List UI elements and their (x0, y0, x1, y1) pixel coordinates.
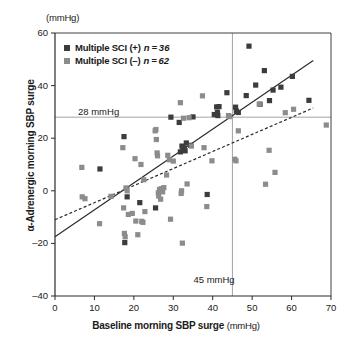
data-point-marker (233, 158, 238, 163)
data-point-marker (168, 217, 173, 222)
legend-item-sci-positive: Multiple SCI (+) n = 36 (64, 41, 169, 54)
data-point-marker (189, 143, 194, 148)
x-tick-label: 50 (242, 302, 262, 313)
x-tick-label: 70 (321, 302, 341, 313)
x-tick-label: 10 (84, 302, 104, 313)
data-point-marker (154, 137, 159, 142)
data-point-marker (121, 134, 126, 139)
data-point-marker (200, 93, 205, 98)
sci-negative-fit (55, 108, 313, 220)
data-point-marker (165, 153, 170, 158)
y-tick-label: 60 (22, 27, 48, 38)
data-point-marker (121, 205, 126, 210)
data-point-marker (141, 177, 146, 182)
x-tick-label: 40 (203, 302, 223, 313)
data-point-marker (184, 181, 189, 186)
data-point-marker (171, 158, 176, 163)
y-tick-label: –40 (22, 290, 48, 301)
y-tick-label: 0 (22, 185, 48, 196)
x-tick-label: 30 (163, 302, 183, 313)
data-point-marker (135, 232, 140, 237)
data-point-marker (122, 240, 127, 245)
data-point-marker (82, 196, 87, 201)
data-point-marker (227, 114, 232, 119)
x-tick-label: 60 (282, 302, 302, 313)
data-point-marker (244, 93, 249, 98)
data-point-marker (164, 172, 169, 177)
data-point-marker (123, 234, 128, 239)
data-point-marker (130, 211, 135, 216)
legend-item-sci-negative: Multiple SCI (–) n = 62 (64, 54, 169, 67)
x-tick-label: 0 (45, 302, 65, 313)
data-point-marker (158, 197, 163, 202)
data-point-marker (204, 204, 209, 209)
data-point-marker (186, 115, 191, 120)
data-point-marker (236, 110, 241, 115)
data-point-marker (262, 68, 267, 73)
data-point-marker (263, 182, 268, 187)
data-point-marker (209, 158, 214, 163)
data-point-marker (97, 221, 102, 226)
data-point-marker (161, 185, 166, 190)
scatter-plot-figure: (mmHg) Multiple SCI (+) n = 36 Multiple … (0, 0, 352, 343)
data-point-marker (224, 90, 229, 95)
data-point-marker (97, 166, 102, 171)
x-axis-title-text: Baseline morning SBP surge (92, 320, 224, 331)
legend-n-sci-positive: n = 36 (144, 42, 170, 53)
data-point-marker (215, 113, 220, 118)
data-point-marker (246, 44, 251, 49)
data-point-marker (140, 220, 145, 225)
data-point-marker (168, 115, 173, 120)
data-point-marker (138, 162, 143, 167)
data-point-marker (236, 128, 241, 133)
data-point-marker (125, 194, 130, 199)
data-point-marker (278, 85, 283, 90)
data-point-marker (180, 241, 185, 246)
legend-swatch-sci-negative (64, 58, 70, 64)
data-point-marker (142, 209, 147, 214)
y-tick-label: 20 (22, 132, 48, 143)
data-point-marker (270, 87, 275, 92)
data-point-marker (253, 82, 258, 87)
data-point-marker (153, 205, 158, 210)
data-point-marker (201, 145, 206, 150)
data-point-marker (283, 110, 288, 115)
legend: Multiple SCI (+) n = 36 Multiple SCI (–)… (64, 41, 169, 67)
x-axis-title-unit: (mmHg) (227, 320, 260, 331)
v-reference-line-label: 45 mmHg (193, 274, 234, 285)
data-point-marker (178, 100, 183, 105)
legend-label-sci-positive: Multiple SCI (+) (75, 42, 141, 53)
data-point-marker (291, 107, 296, 112)
data-point-marker (267, 98, 272, 103)
data-point-marker (133, 218, 138, 223)
legend-swatch-sci-positive (64, 45, 70, 51)
legend-n-sci-negative: n = 62 (143, 55, 169, 66)
legend-label-sci-negative: Multiple SCI (–) (75, 55, 140, 66)
data-point-marker (179, 188, 184, 193)
data-point-marker (153, 127, 158, 132)
data-point-marker (216, 104, 221, 109)
data-point-marker (132, 156, 137, 161)
x-tick-label: 20 (124, 302, 144, 313)
x-axis-title: Baseline morning SBP surge (mmHg) (0, 320, 352, 331)
data-point-marker (205, 192, 210, 197)
data-point-marker (266, 148, 271, 153)
y-tick-label: 40 (22, 80, 48, 91)
data-point-marker (125, 188, 130, 193)
data-point-marker (306, 98, 311, 103)
data-point-marker (324, 122, 329, 127)
data-point-marker (137, 200, 142, 205)
data-point-marker (108, 194, 113, 199)
data-point-marker (120, 145, 125, 150)
y-tick-label: –20 (22, 237, 48, 248)
data-point-marker (155, 153, 160, 158)
data-point-marker (181, 116, 186, 121)
data-point-marker (257, 101, 262, 106)
data-point-marker (290, 74, 295, 79)
data-point-marker (79, 165, 84, 170)
plot-canvas (0, 0, 352, 343)
data-point-marker (183, 148, 188, 153)
h-reference-line-label: 28 mmHg (78, 106, 119, 117)
data-point-marker (272, 170, 277, 175)
